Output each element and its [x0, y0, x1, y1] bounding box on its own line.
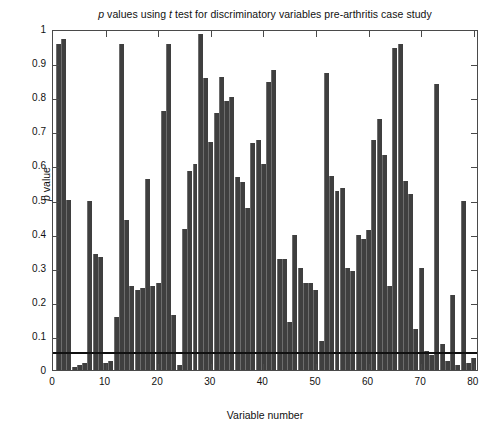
bar [240, 182, 245, 370]
bar [171, 315, 176, 370]
y-axis-tick [53, 133, 59, 134]
x-axis-tick-top [369, 31, 370, 37]
y-axis-tick-right [471, 133, 477, 134]
bar [166, 44, 171, 370]
bar [261, 164, 266, 370]
figure-canvas: p values using t test for discriminatory… [0, 0, 498, 434]
bar [335, 191, 340, 370]
y-axis-p-symbol: p [40, 195, 52, 201]
bar [61, 39, 66, 370]
x-axis-tick-label: 60 [348, 377, 388, 387]
bar [182, 229, 187, 371]
bar [319, 341, 324, 370]
bar [271, 70, 276, 370]
bar [287, 322, 292, 370]
x-axis-tick-top [421, 31, 422, 37]
bar [340, 188, 345, 370]
chart-title: p values using t test for discriminatory… [52, 8, 478, 21]
bar [250, 143, 255, 370]
bar [308, 283, 313, 370]
x-axis-tick [369, 364, 370, 370]
y-axis-tick-label: 0.1 [2, 332, 46, 342]
bar [292, 235, 297, 370]
bar [219, 77, 224, 370]
y-axis-tick [53, 99, 59, 100]
bar [224, 101, 229, 370]
bar [392, 48, 397, 370]
bar [361, 239, 366, 370]
x-axis-tick [316, 364, 317, 370]
y-axis-title-rest: value [40, 167, 52, 195]
y-axis-tick-right [471, 338, 477, 339]
bar [140, 288, 145, 370]
bar [124, 220, 129, 370]
y-axis-tick-right [471, 99, 477, 100]
bar [177, 365, 182, 370]
y-axis-tick [53, 270, 59, 271]
y-axis-tick-right [471, 167, 477, 168]
y-axis-tick-label: 1 [2, 25, 46, 35]
bar [387, 286, 392, 370]
x-axis-tick-top [211, 31, 212, 37]
bar [87, 201, 92, 370]
y-axis-tick-right [471, 236, 477, 237]
x-axis-tick [106, 364, 107, 370]
bar [429, 355, 434, 370]
y-axis-tick-right [471, 65, 477, 66]
bar [329, 176, 334, 370]
bar [303, 283, 308, 370]
x-axis-tick [421, 364, 422, 370]
y-axis-title: p value [40, 124, 52, 244]
bar [256, 140, 261, 370]
bar [350, 271, 355, 370]
y-axis-tick-right [471, 304, 477, 305]
bar [424, 351, 429, 370]
bar [313, 290, 318, 370]
bar [466, 363, 471, 370]
y-axis-tick-right [471, 270, 477, 271]
y-axis-tick [53, 338, 59, 339]
x-axis-tick-top [106, 31, 107, 37]
bar [187, 171, 192, 370]
x-axis-tick-label: 70 [400, 377, 440, 387]
title-mid-1: values using [104, 8, 169, 20]
bar [72, 367, 77, 370]
bar [203, 78, 208, 370]
bar [245, 208, 250, 370]
y-axis-tick [53, 202, 59, 203]
bar [108, 361, 113, 370]
bar [82, 363, 87, 370]
bar [214, 113, 219, 370]
x-axis-tick [158, 364, 159, 370]
bar [403, 181, 408, 370]
bar [119, 44, 124, 370]
x-axis-tick-top [158, 31, 159, 37]
bar [198, 34, 203, 370]
y-axis-tick [53, 65, 59, 66]
bar [324, 73, 329, 370]
bar [150, 286, 155, 370]
bar [77, 365, 82, 370]
bar [193, 164, 198, 370]
bar [419, 268, 424, 370]
significance-threshold-line [53, 352, 477, 354]
x-axis-tick-label: 40 [242, 377, 282, 387]
x-axis-tick [211, 364, 212, 370]
x-axis-tick-label: 10 [85, 377, 125, 387]
bar [208, 142, 213, 370]
x-axis-tick-label: 0 [32, 377, 72, 387]
x-axis-tick-label: 50 [295, 377, 335, 387]
bar [229, 97, 234, 370]
y-axis-tick-label: 0.3 [2, 264, 46, 274]
bar [298, 268, 303, 370]
bar [156, 283, 161, 370]
x-axis-tick-top [316, 31, 317, 37]
y-axis-tick-label: 0.2 [2, 298, 46, 308]
x-axis-tick-label: 80 [453, 377, 493, 387]
bar [377, 119, 382, 370]
bar [356, 235, 361, 370]
bar [266, 82, 271, 370]
bar [366, 230, 371, 370]
bar [145, 179, 150, 370]
bar [66, 200, 71, 371]
